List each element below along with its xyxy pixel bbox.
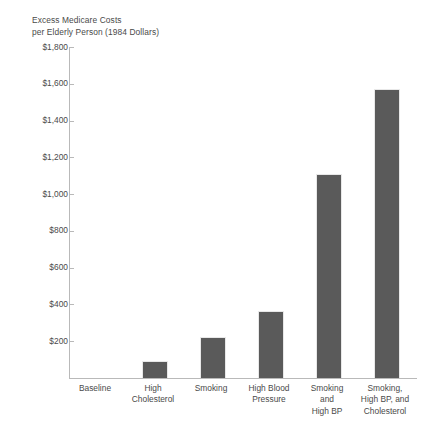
chart-title: Excess Medicare Costs per Elderly Person… — [32, 15, 332, 38]
bar-group — [127, 47, 185, 378]
plot-area — [69, 47, 417, 378]
x-axis-tick-label: Smoking, High BP, and Cholesterol — [354, 383, 416, 417]
bar — [200, 337, 226, 378]
y-axis-tick-label: $400 — [49, 299, 68, 310]
bar-group — [243, 47, 301, 378]
y-axis-tick-label: $1,000 — [42, 189, 68, 200]
bar — [374, 89, 400, 378]
y-axis-tick-label: $800 — [49, 225, 68, 236]
x-axis-tick-label: Baseline — [64, 383, 126, 394]
y-axis-tick-label: $1,600 — [42, 78, 68, 89]
bar-group — [69, 47, 127, 378]
x-axis-line — [69, 378, 417, 379]
bar — [316, 174, 342, 378]
x-axis-labels: BaselineHigh CholesterolSmokingHigh Bloo… — [69, 383, 417, 438]
y-axis-tick-label: $1,800 — [42, 42, 68, 53]
bar — [142, 361, 168, 378]
x-axis-tick-label: Smoking and High BP — [296, 383, 358, 417]
bar-group — [359, 47, 417, 378]
y-axis-tick-label: $600 — [49, 262, 68, 273]
bar-group — [301, 47, 359, 378]
y-axis-tick-label: $1,400 — [42, 115, 68, 126]
y-axis-tick-label: $1,200 — [42, 152, 68, 163]
x-axis-tick-label: High Cholesterol — [122, 383, 184, 406]
y-axis-tick-label: $200 — [49, 336, 68, 347]
bar-group — [185, 47, 243, 378]
excess-medicare-costs-bar-chart: Excess Medicare Costs per Elderly Person… — [0, 0, 441, 445]
bar — [258, 311, 284, 378]
x-axis-tick-label: High Blood Pressure — [238, 383, 300, 406]
x-axis-tick-label: Smoking — [180, 383, 242, 394]
